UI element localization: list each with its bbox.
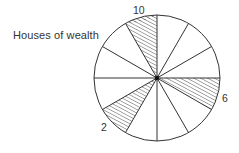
sector-label-10: 10 <box>133 5 145 16</box>
spoke-30 <box>157 47 212 79</box>
center-dot <box>155 76 159 80</box>
sector-label-2: 2 <box>101 122 107 133</box>
sector-label-6: 6 <box>222 93 228 104</box>
houses-wheel-diagram <box>0 0 239 153</box>
spoke-60 <box>157 23 189 78</box>
